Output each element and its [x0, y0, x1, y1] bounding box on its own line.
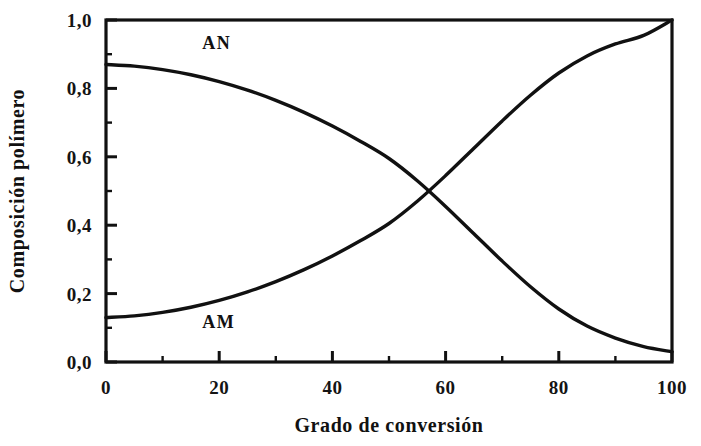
x-tick-label: 100: [657, 377, 687, 398]
y-tick-label: 0,2: [67, 284, 92, 305]
y-tick-label: 0,0: [67, 352, 92, 373]
y-tick-label: 0,4: [67, 215, 92, 236]
x-tick-label: 60: [436, 377, 456, 398]
x-tick-label: 0: [101, 377, 111, 398]
series-label-am: AM: [202, 312, 235, 332]
y-tick-label: 0,6: [67, 147, 92, 168]
y-axis-title: Composición polímero: [6, 89, 29, 293]
x-tick-label: 20: [209, 377, 229, 398]
x-tick-label: 80: [549, 377, 569, 398]
series-label-an: AN: [202, 33, 231, 53]
y-tick-label: 1,0: [67, 10, 92, 31]
x-tick-label: 40: [322, 377, 342, 398]
x-axis-title: Grado de conversión: [294, 414, 483, 436]
chart-figure: 020406080100 0,00,20,40,60,81,0 ANAM Gra…: [0, 0, 701, 446]
composition-conversion-plot: 020406080100 0,00,20,40,60,81,0 ANAM Gra…: [0, 0, 701, 446]
y-tick-label: 0,8: [67, 78, 92, 99]
